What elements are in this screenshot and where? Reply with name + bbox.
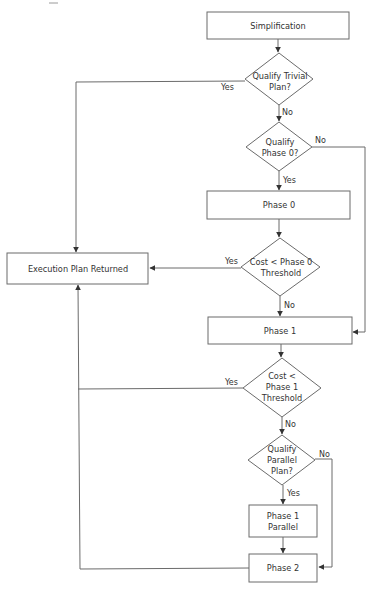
node-execution-plan-returned: Execution Plan Returned (7, 253, 148, 284)
node-simplification: Simplification (207, 12, 349, 39)
edge-parallel-no (315, 459, 332, 567)
edge-label-cost1-yes: Yes (224, 378, 238, 387)
node-label: Parallel (267, 455, 297, 465)
decision-qualify-trivial: Qualify Trivial Plan? (245, 53, 313, 105)
edge-cost1-yes (78, 388, 243, 389)
node-label: Phase 1 (264, 326, 296, 336)
decision-cost-phase1: Cost < Phase 1 Threshold (243, 358, 321, 417)
node-label: Phase 0 (263, 200, 295, 210)
optimizer-flowchart: Simplification Qualify Trivial Plan? Qua… (0, 0, 371, 592)
node-label: Parallel (268, 522, 298, 532)
edge-label-parallel-no: No (319, 450, 330, 459)
decision-qualify-phase0: Qualify Phase 0? (246, 122, 312, 171)
decision-qualify-parallel: Qualify Parallel Plan? (248, 435, 315, 485)
node-label: Phase 0? (262, 148, 299, 158)
node-phase0: Phase 0 (207, 191, 350, 219)
node-label: Qualify (268, 444, 297, 454)
node-label: Phase 2 (267, 563, 299, 573)
edge-label-parallel-yes: Yes (286, 489, 300, 498)
node-label: Plan? (269, 82, 291, 92)
node-phase2: Phase 2 (249, 554, 317, 582)
node-label: Simplification (250, 21, 306, 31)
node-label: Qualify Trivial (252, 71, 307, 81)
decision-cost-phase0: Cost < Phase 0 Threshold (241, 238, 320, 296)
node-label: Phase 1 (267, 511, 299, 521)
node-phase1-parallel: Phase 1 Parallel (249, 505, 317, 537)
node-label: Qualify (266, 137, 295, 147)
node-phase1: Phase 1 (208, 317, 352, 344)
node-label: Plan? (271, 466, 293, 476)
edge-trivial-yes (76, 81, 245, 252)
node-label: Threshold (261, 393, 302, 403)
edge-label-cost1-no: No (285, 420, 296, 429)
edge-label-phase0q-no: No (315, 136, 326, 145)
edge-label-trivial-yes: Yes (220, 83, 234, 92)
connectors (76, 39, 365, 569)
node-label: Execution Plan Returned (28, 264, 128, 274)
edge-label-cost0-yes: Yes (224, 257, 238, 266)
node-label: Cost < (268, 371, 296, 381)
edge-label-phase0q-yes: Yes (282, 176, 296, 185)
edge-label-trivial-no: No (282, 108, 293, 117)
node-label: Threshold (260, 268, 301, 278)
edge-phase0q-no (312, 147, 365, 332)
node-label: Cost < Phase 0 (250, 257, 313, 267)
node-label: Phase 1 (266, 382, 298, 392)
edge-label-cost0-no: No (284, 301, 295, 310)
